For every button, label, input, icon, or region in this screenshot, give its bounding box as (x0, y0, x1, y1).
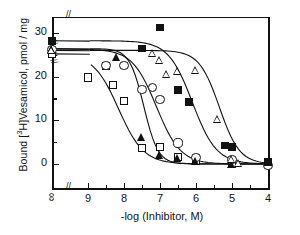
data-point-filled-squares (228, 143, 236, 151)
data-point-filled-squares (138, 45, 146, 53)
y-tick-label: 0 (23, 156, 47, 168)
x-tick-label: 7 (149, 192, 171, 204)
data-point-open-circles (119, 61, 128, 70)
data-point-open-triangles (173, 67, 181, 75)
y-tick-label: 10 (23, 112, 47, 124)
data-point-filled-squares (174, 86, 182, 94)
data-point-filled-squares (185, 98, 193, 106)
data-point-open-triangles (191, 66, 199, 74)
data-point-filled-triangles (112, 53, 120, 61)
data-point-open-circles (155, 95, 164, 104)
plot-area: ∞987654 3020100 ////////// (52, 17, 270, 190)
y-axis-title-superscript: 3 (15, 130, 24, 134)
figure-panel: Bound [3H]Vesamicol, pmol / mg -log (Inh… (0, 0, 300, 235)
data-point-open-triangles (213, 115, 221, 123)
data-point-filled-triangles (137, 133, 145, 141)
data-point-open-squares (84, 73, 92, 81)
data-point-open-squares (109, 81, 117, 89)
y-tick-label: 30 (23, 25, 47, 37)
data-point-filled-squares (156, 24, 164, 32)
data-point-open-triangles (162, 70, 170, 78)
data-point-open-circles (173, 138, 182, 147)
data-point-filled-squares (48, 37, 56, 45)
x-tick-label: 5 (221, 192, 243, 204)
x-tick-label: 8 (113, 192, 135, 204)
data-point-open-triangles (234, 159, 242, 167)
data-point-filled-triangles (191, 157, 199, 165)
data-point-filled-triangles (155, 151, 163, 159)
data-point-open-squares (120, 97, 128, 105)
data-point-filled-squares (264, 158, 272, 166)
x-axis-title: -log (Inhibitor, M) (52, 210, 272, 222)
y-tick-label: 20 (23, 69, 47, 81)
data-point-open-triangles (47, 46, 55, 54)
data-point-filled-triangles (173, 154, 181, 162)
x-tick-label: 9 (77, 192, 99, 204)
x-tick-label: 6 (185, 192, 207, 204)
x-tick-label: 4 (257, 192, 279, 204)
data-point-open-circles (101, 61, 110, 70)
data-point-open-triangles (155, 56, 163, 64)
data-point-open-squares (138, 144, 146, 152)
data-point-open-circles (137, 85, 146, 94)
